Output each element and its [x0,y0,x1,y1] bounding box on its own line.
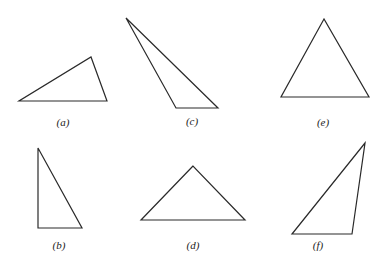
label-a: (a) [57,116,70,128]
label-f: (f) [313,239,323,251]
triangle-c [126,18,218,108]
triangle-e [281,19,369,97]
triangle-figure: (a) (b) (c) (d) (e) (f) [0,0,381,266]
triangle-f [292,143,365,234]
label-e: (e) [317,116,329,128]
triangles-drawing [0,0,381,266]
triangle-a [19,57,107,101]
triangle-b [38,148,82,228]
label-b: (b) [53,239,66,251]
label-c: (c) [186,115,198,127]
triangle-d [141,166,245,220]
label-d: (d) [187,239,200,251]
